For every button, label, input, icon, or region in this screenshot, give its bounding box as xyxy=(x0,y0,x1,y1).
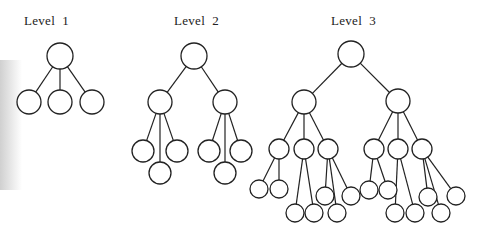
tree-edge xyxy=(306,159,313,204)
tree-edge xyxy=(229,113,238,140)
tree-node xyxy=(214,162,236,184)
tree-node xyxy=(269,139,289,159)
tree-node xyxy=(230,140,252,162)
tree-edge xyxy=(370,159,373,181)
tree-node xyxy=(432,204,450,222)
tree-node xyxy=(48,90,72,114)
tree-edge xyxy=(332,158,347,188)
tree-edge xyxy=(164,113,173,140)
tree-node xyxy=(294,139,314,159)
tree-edge xyxy=(284,113,299,141)
tree-node xyxy=(419,188,437,206)
tree-node xyxy=(148,90,172,114)
tree-edge xyxy=(401,159,413,205)
tree-edge xyxy=(403,112,417,140)
tree-node xyxy=(379,181,397,199)
tree-edge xyxy=(296,159,302,204)
tree-node xyxy=(342,187,360,205)
tree-node xyxy=(250,180,268,198)
tree-node xyxy=(364,139,384,159)
tree-edge xyxy=(167,66,186,92)
tree-node xyxy=(406,204,424,222)
tree-node xyxy=(270,180,288,198)
tree-edge xyxy=(360,63,389,92)
tree-node xyxy=(412,139,432,159)
tree-node xyxy=(17,90,41,114)
tree-node xyxy=(80,90,104,114)
tree-node xyxy=(316,187,334,205)
tree-node xyxy=(292,90,316,114)
tree-node xyxy=(213,90,237,114)
tree-edge xyxy=(312,63,342,93)
tree-root-node xyxy=(338,41,364,67)
tree-edge xyxy=(201,67,218,92)
tree-node xyxy=(286,204,304,222)
tree-node xyxy=(318,139,338,159)
tree-node xyxy=(360,181,378,199)
tree-root-node xyxy=(181,43,207,69)
tree-node xyxy=(166,140,188,162)
tree-node xyxy=(149,162,171,184)
tree-edge xyxy=(378,112,392,140)
tree-edge xyxy=(36,67,53,92)
tree-node xyxy=(386,89,410,113)
tree-edge xyxy=(147,113,156,140)
tree-node xyxy=(305,204,323,222)
tree-edge xyxy=(67,67,85,92)
tree-edge xyxy=(309,113,323,140)
tree-edge xyxy=(377,158,385,181)
tree-edge xyxy=(326,159,328,187)
tree-diagram-canvas xyxy=(0,0,483,241)
tree-edge xyxy=(395,159,397,204)
tree-edge xyxy=(212,113,221,140)
tree-node xyxy=(328,204,346,222)
tree-node xyxy=(447,187,465,205)
tree-root-node xyxy=(47,43,73,69)
tree-node xyxy=(388,139,408,159)
tree-edge xyxy=(428,157,451,189)
tree-node xyxy=(198,140,220,162)
tree-edge xyxy=(263,158,275,181)
tree-node xyxy=(132,140,154,162)
tree-node xyxy=(386,204,404,222)
